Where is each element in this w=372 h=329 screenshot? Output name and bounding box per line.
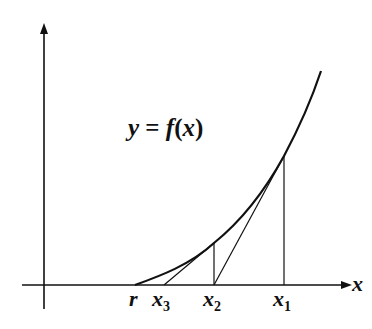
function-label-fname: f <box>166 114 174 141</box>
point-label-x3-sub: 3 <box>163 299 170 314</box>
point-label-x1-base: x <box>273 286 284 311</box>
x-axis-arrow-icon <box>341 281 352 289</box>
point-label-x2-base: x <box>203 286 214 311</box>
point-label-x2: x2 <box>203 286 221 315</box>
function-label-eq: = <box>145 114 159 141</box>
tangent-line-x1 <box>214 156 284 285</box>
function-label-close: ) <box>195 114 203 141</box>
diagram-graphics <box>0 0 372 329</box>
point-label-x3-base: x <box>152 286 163 311</box>
newton-method-diagram: y = f(x) r x3 x2 x1 x <box>0 0 372 329</box>
function-label: y = f(x) <box>128 114 203 142</box>
function-label-open: ( <box>174 114 182 141</box>
point-label-x2-sub: 2 <box>214 299 221 314</box>
x-axis-label: x <box>352 271 363 297</box>
function-label-arg: x <box>183 114 196 141</box>
point-label-r: r <box>129 286 138 312</box>
function-label-var: y <box>128 114 139 141</box>
point-label-x1-sub: 1 <box>284 299 291 314</box>
point-label-r-base: r <box>129 286 138 311</box>
point-label-x3: x3 <box>152 286 170 315</box>
point-label-x1: x1 <box>273 286 291 315</box>
y-axis-arrow-icon <box>40 23 48 34</box>
function-curve <box>135 71 321 285</box>
tangent-line-x2 <box>164 243 214 285</box>
